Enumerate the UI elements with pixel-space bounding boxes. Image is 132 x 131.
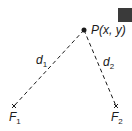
corner-square [118, 8, 132, 22]
focus2-marker-icon [114, 104, 118, 108]
focus1-label: F1 [9, 110, 21, 126]
focus1-marker-icon [12, 104, 16, 108]
distance-line-d1 [14, 30, 84, 106]
point-p-dot [82, 28, 87, 33]
distance2-label: d2 [103, 55, 115, 71]
distance1-label: d1 [36, 53, 48, 69]
point-p-label: P(x, y) [91, 23, 126, 37]
ellipse-foci-diagram: P(x, y) d1 d2 F1 F2 [0, 0, 132, 131]
focus2-label: F2 [111, 110, 123, 126]
